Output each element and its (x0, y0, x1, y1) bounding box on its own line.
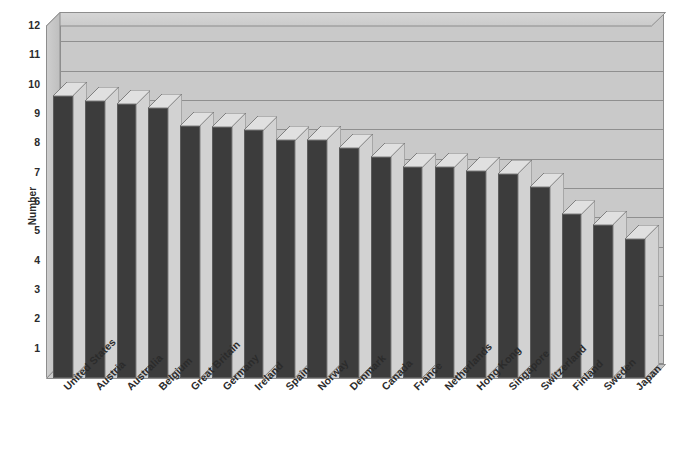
x-axis-tick-labels: United StatesAustriaAustraliaBelgiumGrea… (0, 0, 674, 458)
x-tick-label: Norway (315, 357, 351, 393)
x-tick-label: Spain (283, 363, 312, 392)
x-tick-label: France (411, 359, 444, 392)
x-tick-label: Japan (633, 362, 663, 392)
bar-chart: Number 123456789101112 (0, 0, 674, 458)
x-tick-label: Sweden (601, 356, 638, 393)
